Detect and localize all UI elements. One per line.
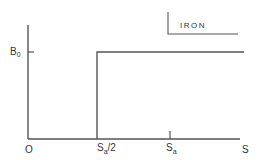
- origin-label: O: [25, 144, 33, 155]
- b0-label: B0: [10, 46, 21, 58]
- tick-label-half-sa: Sa/2: [97, 142, 116, 155]
- legend-label-iron: IRON: [180, 21, 206, 30]
- step-function-diagram: B0 IRON O Sa/2 Sa S: [0, 0, 262, 163]
- step-curve: [97, 52, 244, 139]
- x-axis-label: S: [242, 144, 249, 155]
- tick-label-sa: Sa: [166, 142, 177, 155]
